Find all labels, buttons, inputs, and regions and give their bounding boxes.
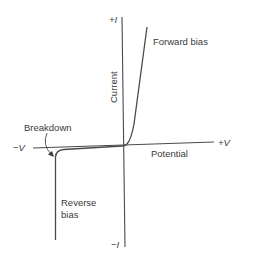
forward-bias-curve <box>122 27 147 146</box>
negative-current-label: −I <box>111 240 119 250</box>
current-axis-title: Current <box>109 71 119 103</box>
potential-axis-title: Potential <box>151 149 188 159</box>
reverse-bias-label-line1: Reverse <box>61 198 96 208</box>
reverse-bias-label-line2: bias <box>61 210 78 220</box>
breakdown-label: Breakdown <box>24 123 72 133</box>
positive-voltage-label: +V <box>218 138 230 148</box>
forward-bias-label: Forward bias <box>153 37 208 47</box>
positive-current-label: +I <box>109 15 117 25</box>
breakdown-arrow <box>45 133 51 154</box>
diode-iv-diagram: +I Forward bias Current Breakdown −V +V … <box>0 0 270 258</box>
negative-voltage-label: −V <box>13 143 25 153</box>
current-axis <box>122 17 125 247</box>
reverse-bias-curve <box>56 146 123 240</box>
